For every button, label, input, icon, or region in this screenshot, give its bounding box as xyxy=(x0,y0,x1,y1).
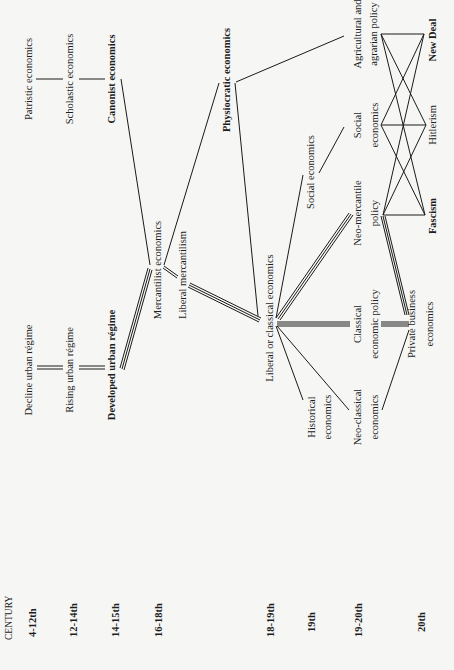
edge-liberal-mercantilism-classical xyxy=(188,283,261,322)
svg-text:Agricultural and: Agricultural and xyxy=(352,0,363,69)
edge-classical-policy xyxy=(277,322,350,326)
svg-text:economics: economics xyxy=(369,103,380,148)
edge-classical-social-19 xyxy=(276,175,303,318)
edge-rising-developed xyxy=(79,366,105,369)
century-label: 19-20th xyxy=(353,603,364,637)
edge-neo-classical-private-business xyxy=(382,330,409,410)
node-classical-policy: Classical economic policy xyxy=(352,288,380,358)
node-rising-urban: Rising urban régime xyxy=(64,327,75,413)
edge-decline-rising xyxy=(37,366,63,369)
node-decline-urban: Decline urban régime xyxy=(23,324,34,415)
node-hitlerism: Hitlerism xyxy=(427,105,438,145)
edge-mercantilist-liberal-mercantilism xyxy=(163,266,178,278)
economic-systems-diagram: CENTURY 4-12th 12-14th 14-15th 16-18th 1… xyxy=(0,0,454,670)
edge-mercantilist-physiocratic xyxy=(164,83,219,265)
node-social-economics-19th: Social economics xyxy=(305,135,316,209)
nodes: Patristic economics Scholastic economics… xyxy=(23,0,438,445)
century-header: CENTURY xyxy=(4,596,14,640)
edge-canonist-mercantilist xyxy=(121,79,150,265)
century-label: 18-19th xyxy=(265,603,276,637)
century-label: 19th xyxy=(306,612,317,632)
svg-text:Private business: Private business xyxy=(406,290,417,358)
node-fascism: Fascism xyxy=(427,198,438,234)
svg-text:Neo-classical: Neo-classical xyxy=(352,389,363,446)
century-label: 16-18th xyxy=(153,603,164,637)
node-canonist: Canonist economics xyxy=(106,35,117,124)
svg-text:economics: economics xyxy=(369,395,380,440)
century-column: CENTURY 4-12th 12-14th 14-15th 16-18th 1… xyxy=(4,596,427,640)
node-liberal-classical: Liberal or classical economics xyxy=(264,254,275,381)
edges-20th-network xyxy=(381,34,426,215)
century-label: 14-15th xyxy=(110,603,121,637)
node-neo-classical: Neo-classical economics xyxy=(352,389,380,446)
edge-developed-mercantilist xyxy=(120,268,152,370)
svg-text:policy: policy xyxy=(369,199,380,226)
svg-text:Historical: Historical xyxy=(306,396,317,437)
century-label: 20th xyxy=(416,612,427,632)
century-label: 12-14th xyxy=(68,603,79,637)
node-social-economics: Social economics xyxy=(352,103,380,148)
node-agricultural: Agricultural and agrarian policy xyxy=(352,0,379,69)
node-physiocratic: Physiocratic economics xyxy=(221,28,232,132)
svg-text:economic policy: economic policy xyxy=(369,288,380,358)
svg-text:Social: Social xyxy=(352,112,363,138)
edge-neo-mercantile-private-business xyxy=(381,216,409,315)
svg-text:economics: economics xyxy=(322,395,333,440)
edge-physiocratic-agricultural xyxy=(236,36,344,82)
svg-text:Neo-mercantile: Neo-mercantile xyxy=(352,180,363,246)
svg-text:agrarian policy: agrarian policy xyxy=(368,2,379,66)
svg-text:Classical: Classical xyxy=(352,305,363,343)
node-developed-urban: Developed urban régime xyxy=(106,310,117,421)
node-liberal-mercantilism: Liberal mercantilism xyxy=(177,231,188,319)
edge-social-19-social-20 xyxy=(319,127,344,173)
edge-classical-historical xyxy=(276,326,303,400)
edge-policy-private-business xyxy=(381,322,409,326)
node-scholastic: Scholastic economics xyxy=(64,34,75,125)
svg-text:economics: economics xyxy=(424,302,435,347)
node-private-business: Private business economics xyxy=(406,290,435,358)
edge-physiocratic-classical xyxy=(235,83,258,316)
node-neo-mercantile: Neo-mercantile policy xyxy=(352,180,380,246)
century-label: 4-12th xyxy=(27,608,38,637)
node-historical: Historical economics xyxy=(306,395,333,440)
node-new-deal: New Deal xyxy=(427,18,438,61)
edge-classical-neo-mercantile xyxy=(276,213,353,320)
node-mercantilist: Mercantilist economics xyxy=(152,221,163,319)
node-patristic: Patristic economics xyxy=(23,38,34,120)
